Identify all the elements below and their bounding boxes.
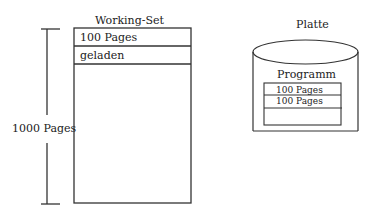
working-set-title: Working-Set (95, 15, 164, 26)
working-set-row: geladen (80, 50, 124, 61)
program-row: 100 Pages (276, 86, 323, 95)
scale-label: 1000 Pages (12, 123, 76, 134)
diagram-lines (0, 0, 371, 215)
program-row: 100 Pages (276, 97, 323, 106)
disk-title: Platte (296, 19, 329, 30)
working-set-row: 100 Pages (80, 32, 137, 43)
program-label: Programm (277, 69, 336, 80)
scale-bar (41, 29, 60, 204)
